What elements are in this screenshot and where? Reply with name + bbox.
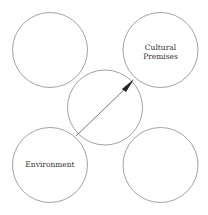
diagram-canvas: Cultural Premises Environment	[0, 0, 208, 215]
circle-top-left	[13, 13, 88, 88]
label-cultural: Cultural	[145, 43, 177, 52]
label-environment: Environment	[25, 160, 74, 169]
label-premises: Premises	[143, 52, 178, 61]
circle-bottom-right	[123, 128, 198, 203]
arrow	[76, 79, 134, 136]
arrowhead-icon	[122, 79, 134, 92]
